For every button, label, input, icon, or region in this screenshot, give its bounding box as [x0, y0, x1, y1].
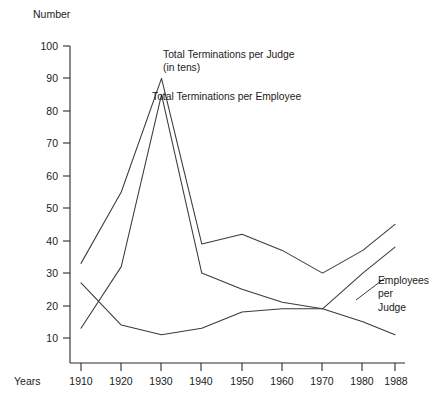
- annotation-line: per: [378, 288, 393, 299]
- y-axis-tick-labels: 100 90 80 70 60 50 40 30 20 10: [40, 40, 58, 344]
- y-tick-label: 100: [40, 40, 58, 52]
- x-tick-label: 1970: [310, 375, 334, 387]
- annotation-line: Total Terminations per Judge: [163, 49, 295, 60]
- annotation-line: Total Terminations per Employee: [152, 91, 301, 102]
- series-line-terminations-per-employee: [81, 95, 395, 329]
- annotation-employees-per-judge: Employees per Judge: [356, 275, 429, 313]
- annotation-terminations-per-judge: Total Terminations per Judge (in tens): [163, 49, 295, 73]
- series-line-employees-per-judge: [81, 283, 395, 335]
- x-tick-label: 1960: [270, 375, 294, 387]
- y-tick-label: 70: [46, 137, 58, 149]
- x-tick-label: 1980: [350, 375, 374, 387]
- y-tick-label: 20: [46, 300, 58, 312]
- x-tick-label: 1920: [109, 375, 133, 387]
- x-axis-title: Years: [14, 375, 40, 387]
- series-line-terminations-per-judge: [81, 78, 395, 273]
- y-tick-label: 90: [46, 72, 58, 84]
- y-tick-label: 50: [46, 202, 58, 214]
- y-axis-ticks: [63, 46, 70, 338]
- x-tick-label: 1910: [69, 375, 93, 387]
- annotation-line: Judge: [378, 302, 406, 313]
- y-tick-label: 30: [46, 267, 58, 279]
- x-tick-label: 1988: [384, 375, 408, 387]
- x-tick-label: 1950: [230, 375, 254, 387]
- y-axis-title: Number: [33, 8, 71, 20]
- annotation-line: (in tens): [163, 62, 200, 73]
- series-group: [81, 78, 395, 334]
- annotation-line: Employees: [378, 275, 429, 286]
- y-tick-label: 80: [46, 105, 58, 117]
- x-tick-label: 1940: [189, 375, 213, 387]
- chart-canvas: Number 100 90 80 70 60 50 40 30 2: [0, 0, 443, 406]
- annotation-terminations-per-employee: Total Terminations per Employee: [152, 91, 301, 102]
- x-tick-label: 1930: [149, 375, 173, 387]
- y-tick-label: 40: [46, 235, 58, 247]
- x-axis-tick-labels: 1910 1920 1930 1940 1950 1960 1970 1980 …: [69, 375, 408, 387]
- x-axis-ticks: [81, 363, 395, 371]
- y-tick-label: 10: [46, 332, 58, 344]
- line-chart: Number 100 90 80 70 60 50 40 30 2: [0, 0, 443, 406]
- y-tick-label: 60: [46, 170, 58, 182]
